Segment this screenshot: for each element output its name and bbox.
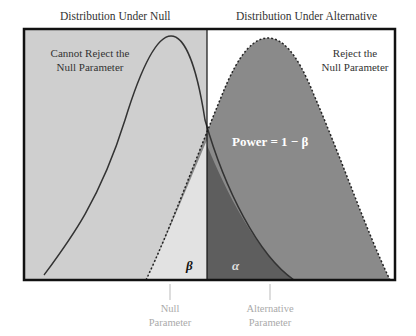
reject-line2: Null Parameter xyxy=(310,60,400,74)
alt-label-line1: Alternative xyxy=(235,302,305,316)
cannot-reject-label: Cannot Reject the Null Parameter xyxy=(30,46,150,74)
null-label-line2: Parameter xyxy=(140,316,200,330)
cannot-reject-line1: Cannot Reject the xyxy=(30,46,150,60)
null-parameter-label: Null Parameter xyxy=(140,302,200,330)
reject-line1: Reject the xyxy=(310,46,400,60)
cannot-reject-line2: Null Parameter xyxy=(30,60,150,74)
beta-annotation: β xyxy=(186,258,193,274)
reject-label: Reject the Null Parameter xyxy=(310,46,400,74)
power-annotation: Power = 1 − β xyxy=(232,134,308,150)
alpha-annotation: α xyxy=(232,258,239,274)
alternative-parameter-label: Alternative Parameter xyxy=(235,302,305,330)
null-label-line1: Null xyxy=(140,302,200,316)
alt-label-line2: Parameter xyxy=(235,316,305,330)
